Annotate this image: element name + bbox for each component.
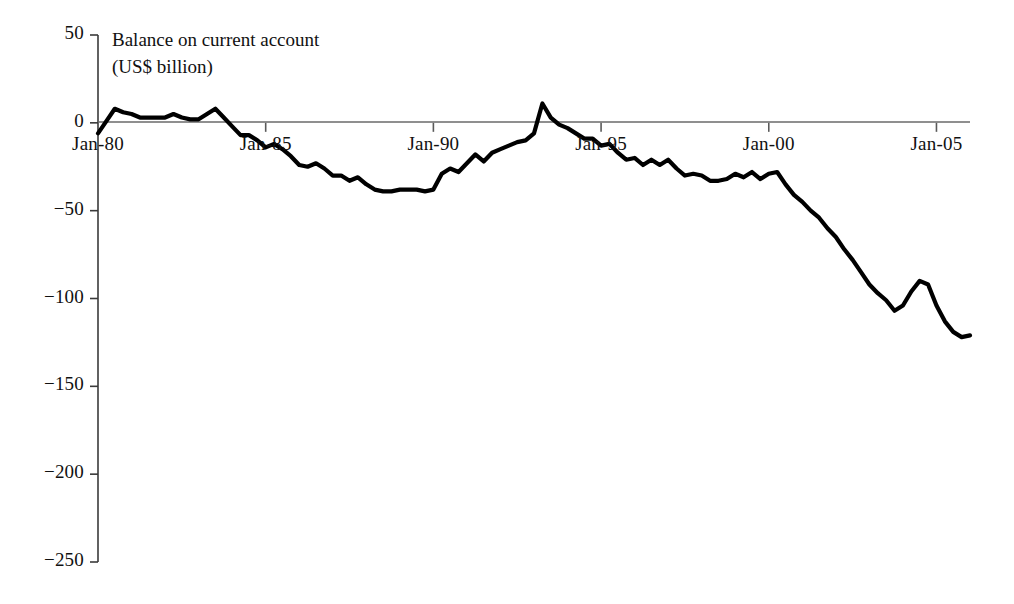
y-axis-tick-label: −150	[44, 373, 84, 395]
x-axis-tick-label: Jan-90	[373, 133, 493, 155]
x-axis-tick-label: Jan-85	[206, 133, 326, 155]
x-axis-ticks	[266, 123, 937, 132]
chart-plot-area	[0, 0, 1014, 604]
y-axis-tick-label: −50	[54, 198, 84, 220]
x-axis-tick-label: Jan-05	[876, 133, 996, 155]
chart-figure: Balance on current account (US$ billion)…	[0, 0, 1014, 604]
y-axis-tick-label: −200	[44, 461, 84, 483]
y-axis-tick-label: −100	[44, 286, 84, 308]
x-axis-tick-label: Jan-80	[38, 133, 158, 155]
x-axis-tick-label: Jan-95	[541, 133, 661, 155]
x-axis-tick-label: Jan-00	[709, 133, 829, 155]
y-axis-tick-label: 50	[65, 22, 84, 44]
y-axis-tick-label: −250	[44, 549, 84, 571]
y-axis-ticks	[90, 35, 98, 562]
y-axis-tick-label: 0	[74, 110, 84, 132]
axis-group	[98, 35, 970, 562]
